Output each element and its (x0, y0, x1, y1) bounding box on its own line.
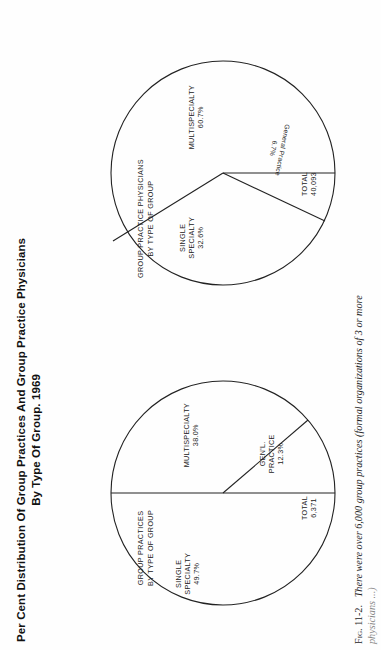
pie-practices-slice-general-practice: GEN'L. PRACTICE 12.3% (258, 412, 286, 496)
page-title: Per Cent Distribution Of Group Practices… (14, 238, 44, 642)
pie-practices-heading: GROUP PRACTICES BY TYPE OF GROUP (136, 510, 155, 586)
slice-label-value: 60.7% (196, 106, 205, 128)
slice-label-value: 6.7% (269, 140, 279, 157)
page-title-line1: Per Cent Distribution Of Group Practices… (15, 238, 27, 642)
slice-label-text: SINGLE (178, 224, 187, 252)
pie-practices-slice-single-specialty: SINGLE SPECIALTY 49.7% (174, 524, 202, 624)
slice-label-text: MULTISPECIALTY (182, 403, 191, 467)
page-title-line2: By Type Of Group. 1969 (29, 238, 44, 642)
total-label: TOTAL (300, 496, 309, 520)
total-value: 40,093 (309, 172, 318, 196)
pie-practices-total: TOTAL 6,371 (300, 496, 319, 520)
slice-label-value: 32.6% (197, 227, 206, 249)
total-value: 6,371 (309, 498, 318, 518)
slice-label-text2: PRACTICE (267, 434, 276, 473)
pie-physicians-slice-single-specialty: SINGLE SPECIALTY 32.6% (178, 188, 206, 288)
pie-chart-practices: GROUP PRACTICES BY TYPE OF GROUP MULTISP… (128, 348, 318, 638)
slice-label-value: 38.0% (191, 424, 200, 446)
pie-physicians-slice-multispecialty: MULTISPECIALTY 60.7% (187, 67, 205, 167)
slice-label-text: GEN'L. (258, 441, 267, 466)
pie-physicians-heading: GROUP PRACTICE PHYSICIANS BY TYPE OF GRO… (136, 159, 155, 278)
pie-physicians-heading-line2: BY TYPE OF GROUP (146, 181, 155, 257)
pie-physicians-heading-line1: GROUP PRACTICE PHYSICIANS (136, 159, 145, 278)
pie-chart-physicians: GROUP PRACTICE PHYSICIANS BY TYPE OF GRO… (128, 28, 318, 318)
pie-practices-heading-line1: GROUP PRACTICES (136, 511, 145, 586)
pie-practices-graphic (128, 348, 318, 638)
pie-practices-heading-line2: BY TYPE OF GROUP (146, 510, 155, 586)
figure-caption-line1: There were over 6,000 group practices (f… (353, 295, 364, 597)
total-label: TOTAL (300, 172, 309, 196)
pie-physicians-total: TOTAL 40,093 (300, 172, 319, 196)
slice-label-text: SINGLE (174, 560, 183, 588)
pie-practices-slice-multispecialty: MULTISPECIALTY 38.0% (182, 385, 200, 485)
figure-number: Fig. 11-2. (353, 605, 364, 644)
slice-label-text2: SPECIALTY (183, 553, 192, 595)
figure-caption: Fig. 11-2. There were over 6,000 group p… (352, 295, 378, 644)
pie-physicians-graphic (128, 28, 318, 318)
slice-label-value: 12.3% (277, 443, 286, 465)
slice-label-text2: SPECIALTY (187, 217, 196, 259)
slice-label-text: MULTISPECIALTY (187, 85, 196, 149)
figure-page: Per Cent Distribution Of Group Practices… (0, 0, 381, 650)
slice-label-value: 49.7% (193, 563, 202, 585)
figure-caption-line2: physicians ...) (365, 295, 378, 644)
